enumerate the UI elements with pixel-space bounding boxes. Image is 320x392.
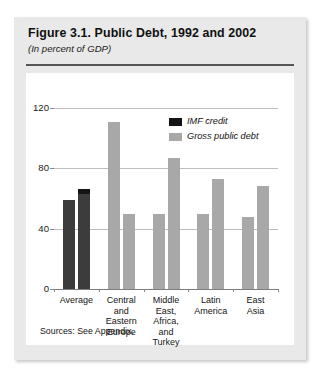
- y-axis-tick: [50, 168, 54, 169]
- bar: [197, 214, 209, 289]
- axis-baseline: [54, 289, 278, 290]
- x-axis-category-label: EastAsia: [228, 295, 283, 316]
- x-axis-tick: [233, 289, 234, 292]
- x-axis-category-line: Turkey: [139, 337, 194, 348]
- bar: [242, 217, 254, 289]
- x-axis-tick: [54, 289, 55, 292]
- header-divider: [26, 64, 294, 66]
- x-axis-tick: [278, 289, 279, 292]
- gridline: [54, 108, 278, 109]
- y-axis-tick-label: 120: [33, 103, 49, 113]
- gridline: [54, 168, 278, 169]
- plot-card: IMF creditGross public debt 04080120Aver…: [26, 73, 294, 345]
- y-axis-tick-label: 0: [44, 284, 49, 294]
- bar: [168, 158, 180, 289]
- bar: [123, 214, 135, 289]
- bar: [153, 214, 165, 289]
- x-axis-category-line: East: [228, 295, 283, 306]
- x-axis-tick: [144, 289, 145, 292]
- figure-subtitle: (In percent of GDP): [28, 42, 292, 55]
- x-axis-category-line: Asia: [228, 306, 283, 317]
- bar: [257, 186, 269, 289]
- bar: [63, 200, 75, 289]
- x-axis-category-line: and: [139, 327, 194, 338]
- figure-card: Figure 3.1. Public Debt, 1992 and 2002 (…: [14, 17, 306, 360]
- x-axis-tick: [188, 289, 189, 292]
- bar-segment-imf-credit: [78, 189, 90, 194]
- bar: [212, 179, 224, 289]
- y-axis-tick-label: 40: [38, 224, 49, 234]
- figure-title: Figure 3.1. Public Debt, 1992 and 2002: [28, 26, 292, 41]
- bar: [78, 189, 90, 289]
- y-axis-tick: [50, 108, 54, 109]
- y-axis-tick: [50, 229, 54, 230]
- source-note: Sources: See Appendix.: [40, 327, 134, 336]
- figure-header: Figure 3.1. Public Debt, 1992 and 2002 (…: [14, 17, 306, 55]
- y-axis-tick-label: 80: [38, 164, 49, 174]
- plot-area: 04080120AverageCentralandEasternEuropeMi…: [54, 108, 278, 289]
- bar: [108, 122, 120, 289]
- x-axis-category-line: Africa,: [139, 316, 194, 327]
- x-axis-tick: [99, 289, 100, 292]
